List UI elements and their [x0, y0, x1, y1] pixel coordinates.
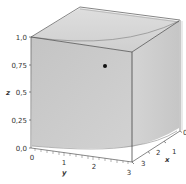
- z-tick-0-75: 0,75: [11, 62, 27, 70]
- z-tick-0-25: 0,25: [11, 117, 27, 125]
- z-axis: [29, 37, 31, 148]
- x-tick-1: 1: [172, 148, 176, 156]
- surface-front-face: [31, 37, 132, 148]
- y-axis-label: y: [62, 169, 67, 177]
- z-tick-0-5: 0,5: [16, 89, 27, 97]
- x-tick-2: 2: [156, 149, 160, 157]
- 3d-plot[interactable]: 1,0 0,75 0,5 0,25 0,0 z 0 1 2 3 y 0: [0, 0, 186, 184]
- z-axis-label: z: [5, 89, 11, 97]
- x-axis-label: x: [164, 156, 170, 164]
- y-tick-3: 3: [127, 169, 131, 177]
- x-tick-0: 0: [183, 129, 186, 137]
- y-tick-2: 2: [92, 163, 96, 171]
- y-tick-0: 0: [30, 154, 34, 162]
- y-tick-1: 1: [62, 159, 66, 167]
- data-point[interactable]: [103, 64, 107, 68]
- z-tick-0-0: 0,0: [16, 145, 27, 153]
- x-tick-3: 3: [141, 160, 145, 168]
- z-tick-1-0: 1,0: [16, 34, 27, 42]
